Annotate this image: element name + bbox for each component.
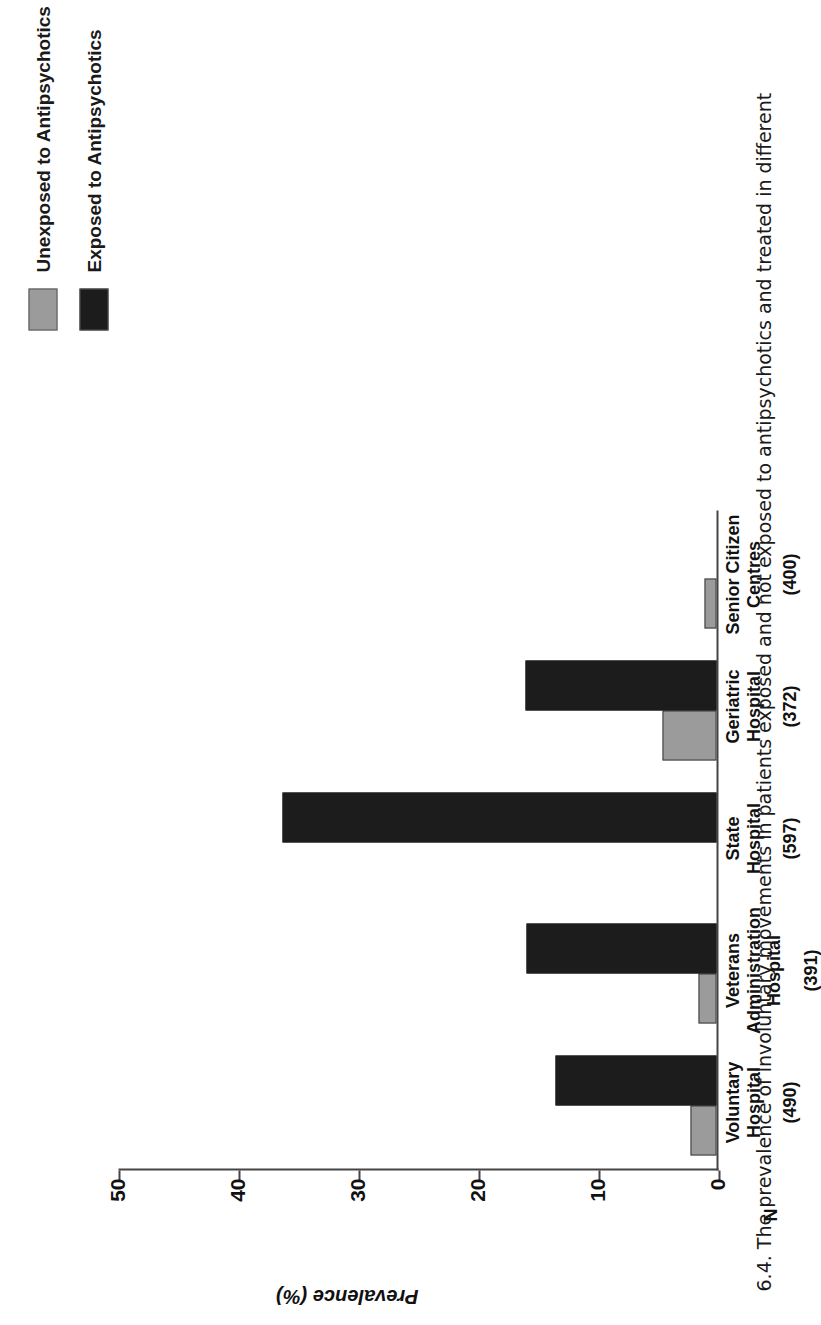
bar-groups [118, 510, 716, 1168]
figure-caption: 6.4. The prevalence of involuntary movem… [752, 21, 774, 1291]
legend-item-exposed: Exposed to Antipsychotics [79, 6, 108, 330]
bar-group [118, 773, 716, 905]
bar-exposed [526, 923, 716, 973]
category-n-value: (490) [779, 1036, 800, 1168]
bar-unexposed [690, 1105, 716, 1155]
category-n-value: (391) [800, 904, 821, 1036]
y-tick-label-0: 0 [706, 1178, 730, 1190]
y-tick-label-20: 20 [466, 1178, 490, 1201]
category-line: Geriatric [722, 669, 742, 743]
category-n-value: (597) [779, 772, 800, 904]
category-line: Veterans [722, 932, 742, 1007]
category-line: Senior Citizen [722, 514, 742, 634]
bar-unexposed [698, 973, 716, 1023]
y-tick-label-30: 30 [346, 1178, 370, 1201]
category-line: State [722, 816, 742, 860]
legend-item-unexposed: Unexposed to Antipsychotics [28, 6, 57, 330]
bar-exposed [555, 1055, 716, 1105]
bar-group [118, 642, 716, 774]
bar-group [118, 905, 716, 1037]
bar-exposed [282, 792, 716, 842]
legend-label-exposed: Exposed to Antipsychotics [83, 29, 105, 272]
legend-label-unexposed: Unexposed to Antipsychotics [32, 6, 54, 272]
category-line: Voluntary [722, 1061, 742, 1143]
y-tick-label-40: 40 [226, 1178, 250, 1201]
bar-group [118, 510, 716, 642]
legend-swatch-unexposed-icon [28, 288, 57, 330]
chart-legend: Unexposed to Antipsychotics Exposed to A… [28, 6, 130, 330]
y-tick-label-10: 10 [586, 1178, 610, 1201]
y-tick-label-50: 50 [106, 1178, 130, 1201]
y-axis-title: Prevalence (%) [276, 1284, 418, 1307]
bar-unexposed [704, 578, 716, 628]
category-n-value: (400) [779, 508, 800, 640]
category-n-value: (372) [779, 640, 800, 772]
bar-group [118, 1036, 716, 1168]
bar-exposed [525, 660, 716, 710]
legend-swatch-exposed-icon [79, 288, 108, 330]
plot-area: 01020304050 [118, 510, 718, 1170]
bar-unexposed [662, 710, 716, 760]
